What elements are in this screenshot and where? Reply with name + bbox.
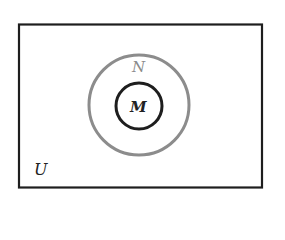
set-n-label: N [132,60,145,75]
universe-label: U [34,162,47,178]
set-m-label: M [130,100,147,115]
